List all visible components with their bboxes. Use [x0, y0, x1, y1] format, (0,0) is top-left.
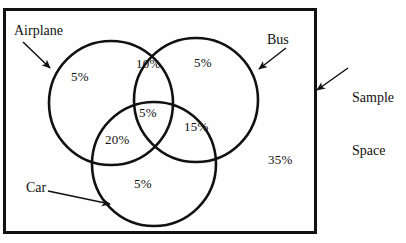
- region-label-airplane-bus-car: 5%: [139, 106, 157, 121]
- venn-diagram-figure: Airplane Bus Car Sample Space 5% 5% 5% 1…: [0, 0, 406, 243]
- sample-space-label-line1: Sample: [352, 89, 394, 107]
- set-label-bus: Bus: [267, 32, 289, 48]
- sample-space-label: Sample Space: [352, 54, 394, 194]
- set-label-car: Car: [26, 180, 46, 196]
- region-label-bus-only: 5%: [194, 56, 212, 71]
- bus-arrow: [259, 48, 286, 69]
- set-label-airplane: Airplane: [14, 23, 63, 39]
- region-label-outside-all: 35%: [268, 153, 292, 168]
- sample-space-label-line2: Space: [352, 142, 394, 160]
- region-label-airplane-only: 5%: [71, 70, 89, 85]
- region-label-bus-car: 15%: [184, 120, 208, 135]
- airplane-arrow: [23, 42, 50, 68]
- sample-space-arrow: [317, 68, 348, 90]
- region-label-airplane-bus: 10%: [136, 57, 160, 72]
- region-label-airplane-car: 20%: [105, 133, 129, 148]
- region-label-car-only: 5%: [134, 177, 152, 192]
